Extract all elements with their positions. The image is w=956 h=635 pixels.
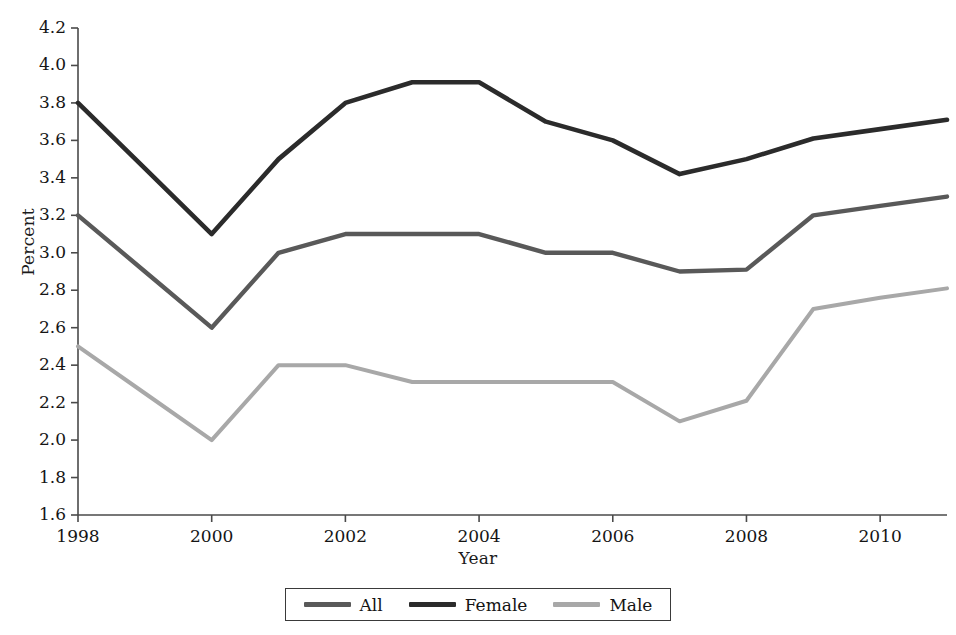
y-tick-label: 4.0 (24, 54, 66, 74)
y-tick-label: 1.6 (24, 504, 66, 524)
legend-item-all: All (291, 595, 396, 615)
legend-label: All (360, 595, 383, 615)
x-tick-label: 1998 (43, 526, 113, 546)
y-tick-label: 4.2 (24, 17, 66, 37)
chart-figure: 1.61.82.02.22.42.62.83.03.23.43.63.84.04… (0, 0, 956, 635)
x-tick-label: 2004 (444, 526, 514, 546)
legend-label: Male (609, 595, 652, 615)
y-tick-label: 3.6 (24, 129, 66, 149)
y-axis-title: Percent (18, 192, 38, 292)
x-tick-label: 2010 (845, 526, 915, 546)
y-tick-label: 2.0 (24, 429, 66, 449)
legend-item-female: Female (396, 595, 541, 615)
x-axis-title: Year (0, 548, 956, 568)
y-tick-label: 2.2 (24, 392, 66, 412)
legend-item-male: Male (540, 595, 665, 615)
y-tick-label: 3.4 (24, 167, 66, 187)
y-tick-label: 2.4 (24, 354, 66, 374)
x-tick-label: 2006 (578, 526, 648, 546)
data-series-group (78, 82, 947, 440)
legend-line-swatch-icon (304, 602, 351, 607)
series-line-female (78, 82, 947, 234)
caption-strip (0, 626, 956, 635)
y-tick-label: 3.8 (24, 92, 66, 112)
y-tick-label: 1.8 (24, 467, 66, 487)
x-tick-label: 2002 (310, 526, 380, 546)
y-tick-label: 2.6 (24, 317, 66, 337)
x-tick-label: 2008 (711, 526, 781, 546)
legend-line-swatch-icon (553, 602, 600, 607)
legend-line-swatch-icon (409, 602, 456, 607)
chart-legend: AllFemaleMale (285, 588, 671, 621)
legend-label: Female (465, 595, 528, 615)
series-line-male (78, 288, 947, 440)
x-tick-label: 2000 (177, 526, 247, 546)
x-axis-ticks (78, 515, 880, 522)
